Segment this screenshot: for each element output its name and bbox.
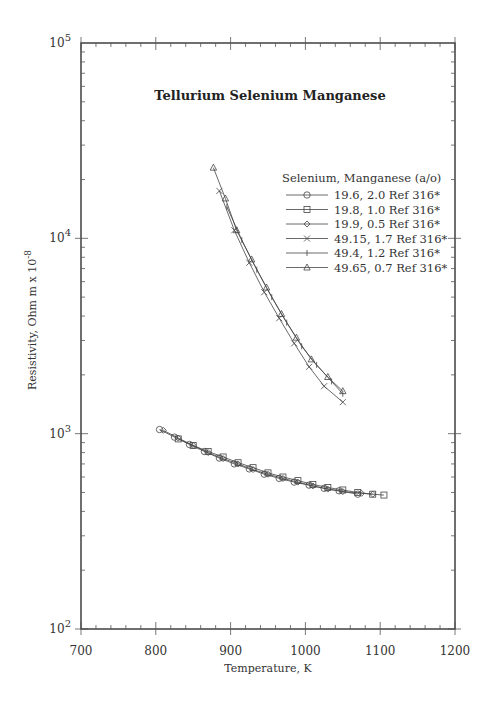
legend-item: 19.6, 2.0 Ref 316* xyxy=(286,188,440,202)
legend-label: 49.65, 0.7 Ref 316* xyxy=(334,261,448,275)
legend-label: 49.15, 1.7 Ref 316* xyxy=(334,232,448,246)
y-axis-title: Resistivity, Ohm m x 10-8 xyxy=(23,250,39,390)
x-tick-label: 1200 xyxy=(440,644,471,658)
legend-label: 19.6, 2.0 Ref 316* xyxy=(334,188,440,202)
x-tick-label: 800 xyxy=(144,644,167,658)
y-tick-label: 105 xyxy=(49,32,71,50)
series-line xyxy=(163,430,372,494)
legend-item: 49.15, 1.7 Ref 316* xyxy=(286,232,448,246)
y-tick-label: 103 xyxy=(49,423,71,441)
y-tick-label: 102 xyxy=(49,618,71,636)
series-1 xyxy=(156,426,361,497)
legend-item: 49.4, 1.2 Ref 316* xyxy=(286,246,440,260)
legend-item: 19.8, 1.0 Ref 316* xyxy=(286,203,440,217)
plot-border xyxy=(81,43,455,629)
series-4 xyxy=(216,188,345,405)
y-axis-ticks: 102103104105 xyxy=(49,32,461,636)
legend-label: 19.9, 0.5 Ref 316* xyxy=(334,217,440,231)
legend-item: 19.9, 0.5 Ref 316* xyxy=(286,217,440,231)
legend-label: 19.8, 1.0 Ref 316* xyxy=(334,203,440,217)
series-5 xyxy=(227,204,343,397)
x-tick-label: 700 xyxy=(70,644,93,658)
plot-frame xyxy=(81,43,455,629)
legend-label: 49.4, 1.2 Ref 316* xyxy=(334,246,440,260)
chart-title: Tellurium Selenium Manganese xyxy=(154,88,385,103)
x-tick-label: 1100 xyxy=(365,644,396,658)
series-line xyxy=(227,207,343,394)
y-tick-label: 104 xyxy=(49,227,71,245)
series-line xyxy=(213,168,342,392)
x-axis-label: Temperature, K xyxy=(224,662,312,675)
series-2 xyxy=(175,436,387,498)
series-line xyxy=(178,439,384,495)
legend-item: 49.65, 0.7 Ref 316* xyxy=(286,261,448,275)
series-line xyxy=(219,191,342,402)
y-axis-label: Resistivity, Ohm m x 10-8 xyxy=(23,250,39,390)
x-tick-label: 1000 xyxy=(290,644,321,658)
series-6 xyxy=(210,164,346,394)
legend: Selenium, Manganese (a/o)19.6, 2.0 Ref 3… xyxy=(282,171,448,275)
legend-title: Selenium, Manganese (a/o) xyxy=(282,171,441,185)
x-tick-label: 900 xyxy=(219,644,242,658)
x-axis-ticks: 700800900100011001200 xyxy=(70,37,471,658)
chart: 700800900100011001200 102103104105 Tellu… xyxy=(0,0,490,702)
